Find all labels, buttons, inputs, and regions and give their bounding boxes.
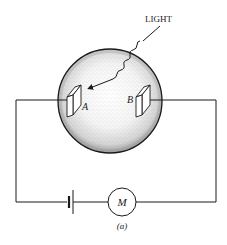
- meter-label: M: [116, 196, 127, 208]
- electrode-b-label: B: [127, 94, 133, 105]
- electrode-a-label: A: [81, 101, 89, 112]
- figure-caption: (a): [117, 221, 128, 231]
- light-label: LIGHT: [145, 14, 172, 24]
- meter: M: [108, 188, 136, 216]
- photoelectric-diagram: LIGHT A B M (a): [0, 0, 227, 245]
- light-pointer-line: [143, 26, 160, 41]
- battery: [69, 190, 73, 214]
